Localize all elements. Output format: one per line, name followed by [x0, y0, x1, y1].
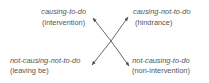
- arrow-to-bottom-left-icon: [92, 41, 111, 65]
- arrow-to-top-left-icon: [93, 18, 111, 41]
- arrow-to-bottom-right-icon: [111, 41, 129, 66]
- cross-arrows: [0, 0, 209, 83]
- arrow-to-top-right-icon: [111, 17, 128, 41]
